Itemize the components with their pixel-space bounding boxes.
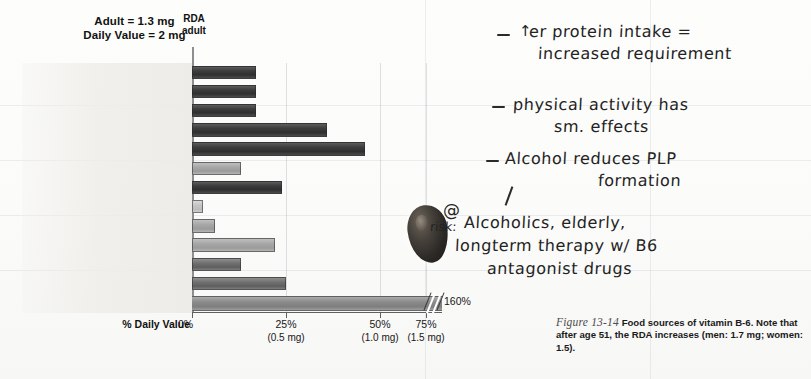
x-tick-label-25-text: 25% [275,318,296,330]
bar [192,142,365,156]
bar-broken-fill [192,296,442,312]
rda-adult-label: RDA adult [166,13,222,37]
handwriting-dash-3 [486,160,499,162]
bar [192,66,256,80]
bar-row: Tuna, 3 oz [0,63,447,82]
rda-label-line-2: adult [182,25,206,36]
figure-number: Figure 13-14 [556,316,619,328]
bar [192,238,275,252]
bar [192,162,241,176]
bar-row: Oatmeal, ¾ cup160% [0,293,447,312]
bar [192,258,241,272]
x-tick-label-75: 75% (1.5 mg) [391,318,461,344]
handwriting-dash-1 [497,34,510,36]
bar [192,85,256,99]
x-tick-sublabel-25: (0.5 mg) [251,331,321,344]
potato-highlight [415,214,430,232]
bar-chart: Adult = 1.3 mg Daily Value = 2 mg RDA ad… [0,0,470,379]
handwriting-note-3-line-2: formation [598,171,682,190]
bar-row: Sweet potato, ½ cup [0,217,447,236]
handwriting-slash [505,186,514,205]
handwriting-note-4-line-2: longterm therapy w/ B6 [455,236,659,255]
scanned-page: Adult = 1.3 mg Daily Value = 2 mg RDA ad… [0,0,811,379]
x-tick-label-25: 25% (0.5 mg) [251,318,321,344]
x-tick-label-50-text: 50% [369,318,390,330]
x-tick-label-75-text: 75% [415,318,436,330]
bar-row: Pinto beans, 1 cup [0,140,447,159]
figure-caption: Figure 13-14 Food sources of vitamin B-6… [556,316,806,354]
bar-row: Potato, ½ cup [0,236,447,255]
handwriting-risk-label: risk: [429,219,457,234]
bar-value-label: 160% [444,292,471,310]
bar-row: Feta cheese, 2 oz [0,159,447,178]
bar-row: Turkey nuggets, 3 oz [0,82,447,101]
bar [192,104,256,118]
bar [192,277,286,291]
bar [192,123,327,137]
handwriting-note-4-line-3: antagonist drugs [487,259,633,278]
bar [192,181,282,195]
handwriting-note-1-line-2: increased requirement [538,44,733,63]
bar-row: Beef, 3 oz [0,101,447,120]
bar-row: Green peppers, ½ cup [0,197,447,216]
x-axis-title: % Daily Value [58,318,190,330]
handwriting-note-1-line-1: er protein intake = [529,22,693,41]
bar [192,200,203,214]
x-tick-sublabel-75: (1.5 mg) [391,331,461,344]
bar-row: Banana, ½ cup [0,178,447,197]
bar-row: Pistachios, 2 oz [0,121,447,140]
handwriting-note-4-line-1: Alcoholics, elderly, [464,213,627,232]
handwriting-dash-2 [492,106,505,108]
rda-label-line-1: RDA [183,13,205,24]
handwriting-note-2-line-2: sm. effects [554,117,650,136]
at-sign-glyph: @ [443,200,460,220]
bar-row: Bagel, 4–inch [0,255,447,274]
handwriting-note-2-line-1: physical activity has [513,95,690,114]
handwriting-note-3-line-1: Alcohol reduces PLP [505,149,677,168]
bar [192,219,215,233]
bar-row: Frosted Flakes® cereal, ¾ cup [0,274,447,293]
